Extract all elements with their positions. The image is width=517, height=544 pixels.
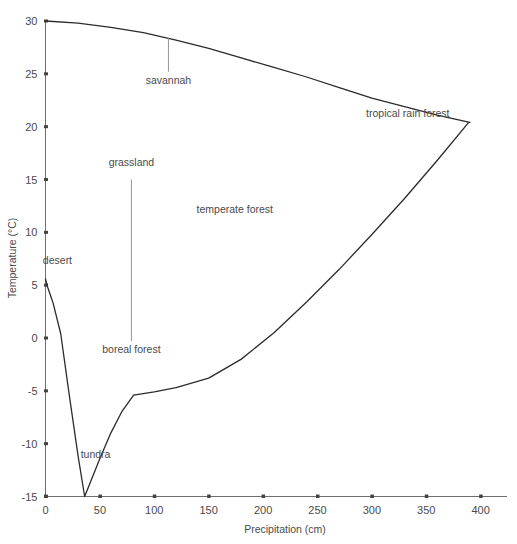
x-tick-mark [316,495,320,499]
x-tick-mark [44,495,48,499]
x-tick-label: 0 [42,504,48,516]
y-tick-mark [44,389,48,392]
x-tick-label: 200 [254,504,272,516]
y-tick-label: 30 [25,15,37,27]
x-tick-label: 150 [200,504,218,516]
x-tick-label: 50 [94,504,106,516]
biome-label-boreal-forest: boreal forest [102,343,160,355]
biome-label-tropical-rain-forest: tropical rain forest [366,107,450,119]
x-tick-label: 250 [308,504,326,516]
y-tick-label: -10 [22,438,38,450]
y-tick-label: 15 [25,174,37,186]
y-tick-label: -15 [22,491,38,503]
x-tick-label: 300 [363,504,381,516]
biome-label-savannah: savannah [146,74,192,86]
x-tick-mark [153,495,157,499]
x-tick-mark [98,495,102,499]
x-tick-label: 400 [472,504,490,516]
y-tick-label: 5 [31,279,37,291]
chart-canvas: 302520151050-5-10-15 0501001502002503003… [0,0,517,544]
biome-label-grassland: grassland [109,156,155,168]
data-series-group [46,21,470,497]
y-tick-label: 10 [25,226,37,238]
biome-label-desert: desert [43,254,72,266]
x-tick-mark [370,495,374,499]
y-tick-label: -5 [28,385,38,397]
y-axis-title: Temperature (°C) [6,218,18,299]
biome-label-temperate-forest: temperate forest [197,203,274,215]
biome-annotations-group: savannahgrasslandboreal foresttemperate … [43,38,450,461]
y-tick-label: 0 [31,332,37,344]
y-tick-mark [44,442,48,445]
y-tick-label: 25 [25,68,37,80]
x-axis-ticks: 050100150200250300350400 [42,495,489,516]
x-tick-mark [262,495,266,499]
y-tick-mark [44,231,48,234]
biome-label-tundra: tundra [81,448,111,460]
x-tick-mark [479,495,483,499]
x-axis-title: Precipitation (cm) [244,523,326,535]
y-tick-mark [44,178,48,181]
whittaker-biome-chart: 302520151050-5-10-15 0501001502002503003… [0,0,517,544]
y-tick-mark [44,337,48,340]
x-tick-mark [207,495,211,499]
x-tick-label: 100 [145,504,163,516]
x-tick-mark [425,495,429,499]
y-tick-mark [44,125,48,128]
y-tick-mark [44,72,48,75]
biome-envelope-curve [46,21,470,497]
x-tick-label: 350 [417,504,435,516]
y-tick-label: 20 [25,121,37,133]
